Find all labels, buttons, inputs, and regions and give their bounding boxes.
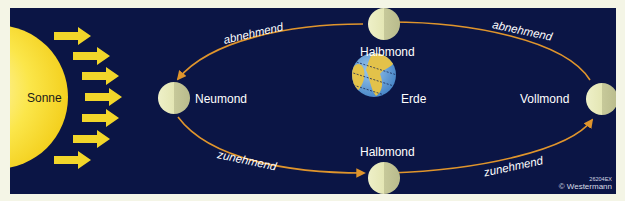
orbit-label-bottom-left: zunehmend (215, 148, 278, 173)
image-credit: 26204EX © Westermann (559, 176, 612, 192)
earth-label: Erde (401, 93, 426, 105)
copyright-text: © Westermann (559, 182, 612, 191)
moon-neumond-icon (158, 82, 190, 114)
sun-ray-arrow-icon (54, 27, 91, 45)
sun-ray-arrow-icon (85, 88, 122, 106)
orbit-label-top-left: abnehmend (222, 20, 284, 45)
moon-phases-diagram: abnehmend abnehmend zunehmend zunehmend … (10, 8, 616, 194)
moon-vollmond-icon (586, 83, 616, 115)
sun-ray-arrow-icon (73, 47, 110, 65)
moon-halbmond-bottom-icon (368, 162, 400, 194)
sun-label: Sonne (27, 92, 62, 104)
sun-ray-arrow-icon (73, 130, 110, 148)
moon-label-neumond: Neumond (195, 93, 247, 105)
orbit-arc-top-right (390, 22, 590, 80)
sun-ray-arrow-icon (82, 67, 119, 85)
moon-label-halbmond-top: Halbmond (360, 46, 415, 58)
moon-label-halbmond-bottom: Halbmond (360, 146, 415, 158)
moon-label-vollmond: Vollmond (520, 93, 569, 105)
sun-ray-arrow-icon (82, 109, 119, 127)
moon-halbmond-top-icon (368, 8, 400, 40)
sun-ray-arrow-icon (54, 151, 91, 169)
earth (350, 53, 400, 100)
